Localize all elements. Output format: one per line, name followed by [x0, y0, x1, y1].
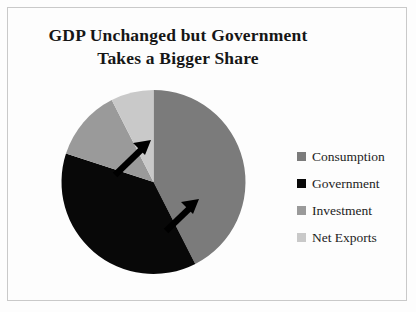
legend-item-label: Consumption	[312, 150, 385, 164]
legend-swatch-icon	[297, 206, 306, 215]
legend-item-net-exports[interactable]: Net Exports	[297, 224, 412, 251]
legend-item-government[interactable]: Government	[297, 170, 412, 197]
legend-item-label: Investment	[312, 204, 372, 218]
pie-slices	[62, 90, 246, 274]
legend-swatch-icon	[297, 233, 306, 242]
legend-item-consumption[interactable]: Consumption	[297, 143, 412, 170]
legend-item-label: Government	[312, 177, 379, 191]
legend-swatch-icon	[297, 179, 306, 188]
legend-swatch-icon	[297, 152, 306, 161]
chart-legend: ConsumptionGovernmentInvestmentNet Expor…	[297, 143, 412, 251]
chart-figure: GDP Unchanged but Government Takes a Big…	[0, 0, 416, 312]
legend-item-label: Net Exports	[312, 231, 377, 245]
legend-item-investment[interactable]: Investment	[297, 197, 412, 224]
